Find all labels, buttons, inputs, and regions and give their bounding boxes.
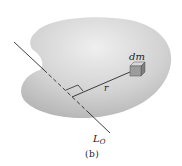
- axis-label: LO: [93, 134, 105, 146]
- rigid-body-diagram: [0, 0, 182, 166]
- axis-label-subscript: O: [100, 138, 106, 146]
- rigid-body-shape: [21, 17, 171, 118]
- radius-label: r: [104, 84, 108, 93]
- axis-label-main: L: [93, 133, 100, 144]
- mass-element-cube-icon: [130, 62, 145, 76]
- mass-element-label: dm: [129, 52, 145, 62]
- figure-caption: (b): [85, 150, 99, 159]
